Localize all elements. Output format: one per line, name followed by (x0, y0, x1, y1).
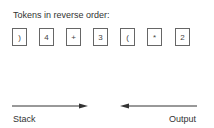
stack-label: Stack (13, 114, 36, 124)
token-box: * (147, 28, 162, 46)
output-label: Output (169, 114, 196, 124)
tokens-heading: Tokens in reverse order: (13, 10, 110, 20)
token-box: + (66, 28, 81, 46)
token-box: 3 (93, 28, 108, 46)
token-box: ) (12, 28, 27, 46)
stack-arrow-icon (12, 100, 88, 112)
output-arrow-icon (120, 100, 197, 112)
token-box: 4 (39, 28, 54, 46)
token-box: 2 (175, 28, 190, 46)
token-box: ( (120, 28, 135, 46)
